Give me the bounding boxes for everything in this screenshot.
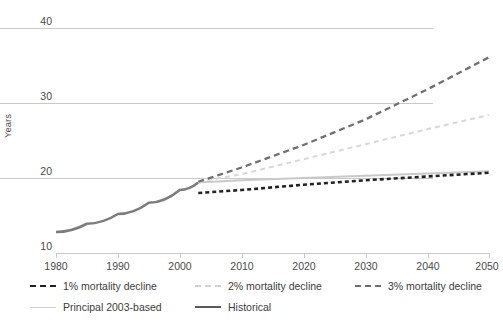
x-tick-2050 (489, 253, 490, 258)
x-tick-1990 (118, 253, 119, 258)
x-tick-2030 (366, 253, 367, 258)
legend-row-1: 1% mortality decline 2% mortality declin… (0, 280, 503, 302)
legend-item-3pct[interactable]: 3% mortality decline (355, 280, 482, 292)
legend-swatch-3pct-icon (355, 285, 381, 287)
legend-item-principal[interactable]: Principal 2003-based (30, 301, 162, 313)
legend-item-historical[interactable]: Historical (195, 301, 271, 313)
y-tick-label-20: 20 (14, 166, 52, 177)
legend-label-3pct: 3% mortality decline (388, 280, 482, 292)
x-tick-2040 (428, 253, 429, 258)
y-axis-title-text: Years (2, 114, 13, 138)
x-tick-2020 (304, 253, 305, 258)
legend-label-historical: Historical (228, 301, 271, 313)
chart-legend: 1% mortality decline 2% mortality declin… (0, 280, 503, 333)
series-line-2-mortality-decline (198, 115, 489, 182)
x-tick-label-2030: 2030 (354, 260, 377, 272)
chart-figure: Years 40 30 20 10 1980 1990 2000 2010 20… (0, 0, 503, 333)
x-tick-label-2040: 2040 (416, 260, 439, 272)
y-tick-label-30: 30 (14, 91, 52, 102)
legend-item-2pct[interactable]: 2% mortality decline (195, 280, 322, 292)
series-line-historical (56, 183, 198, 233)
legend-item-1pct[interactable]: 1% mortality decline (30, 280, 157, 292)
legend-label-principal: Principal 2003-based (63, 301, 162, 313)
x-tick-2000 (180, 253, 181, 258)
x-tick-label-2000: 2000 (168, 260, 191, 272)
x-tick-label-2050: 2050 (475, 260, 498, 272)
y-axis-title: Years (2, 94, 13, 118)
series-line-3-mortality-decline (198, 57, 489, 182)
x-tick-2010 (242, 253, 243, 258)
x-tick-label-1980: 1980 (44, 260, 67, 272)
series-line-principal-2003-based (198, 171, 489, 182)
y-tick-label-10: 10 (14, 241, 52, 252)
x-tick-label-1990: 1990 (106, 260, 129, 272)
x-axis-line (56, 253, 489, 254)
y-tick-label-40: 40 (14, 16, 52, 27)
chart-plot-area: Years 40 30 20 10 1980 1990 2000 2010 20… (0, 0, 503, 278)
legend-label-2pct: 2% mortality decline (228, 280, 322, 292)
x-tick-1980 (56, 253, 57, 258)
legend-swatch-historical-icon (195, 306, 221, 308)
legend-swatch-principal-icon (30, 307, 56, 308)
legend-label-1pct: 1% mortality decline (63, 280, 157, 292)
x-tick-label-2010: 2010 (230, 260, 253, 272)
x-tick-label-2020: 2020 (292, 260, 315, 272)
legend-row-2: Principal 2003-based Historical (0, 301, 503, 323)
legend-swatch-1pct-icon (30, 285, 56, 287)
series-canvas (56, 28, 489, 253)
legend-swatch-2pct-icon (195, 285, 221, 287)
